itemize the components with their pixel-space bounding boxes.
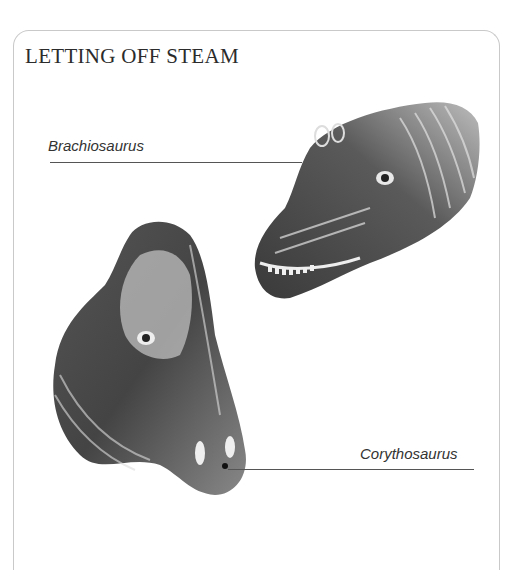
corythosaurus-label: Corythosaurus xyxy=(360,445,458,462)
corythosaurus-head-illustration xyxy=(40,215,270,500)
brachiosaurus-head-illustration xyxy=(250,88,490,308)
corythosaurus-leader-line xyxy=(228,469,474,470)
brachiosaurus-label: Brachiosaurus xyxy=(48,137,144,154)
panel-title: LETTING OFF STEAM xyxy=(25,44,239,69)
